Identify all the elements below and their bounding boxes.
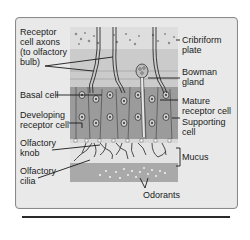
label-developing-receptor-cell: Developing receptor cell [20,110,69,130]
separator-line [22,216,230,218]
label-olfactory-knob: Olfactory knob [20,138,56,158]
label-mature-receptor-cell: Mature receptor cell [182,96,231,116]
label-bowman-gland: Bowman gland [182,67,217,87]
label-mucus: Mucus [182,152,209,162]
label-receptor-cell-axons: Receptor cell axons (to olfactory bulb) [20,27,67,67]
label-basal-cell: Basal cell [20,90,59,100]
label-supporting-cell: Supporting cell [182,117,226,137]
label-cribriform-plate: Cribriform plate [182,35,222,55]
label-odorants: Odorants [143,190,180,200]
label-olfactory-cilia: Olfactory cilia [20,166,56,186]
